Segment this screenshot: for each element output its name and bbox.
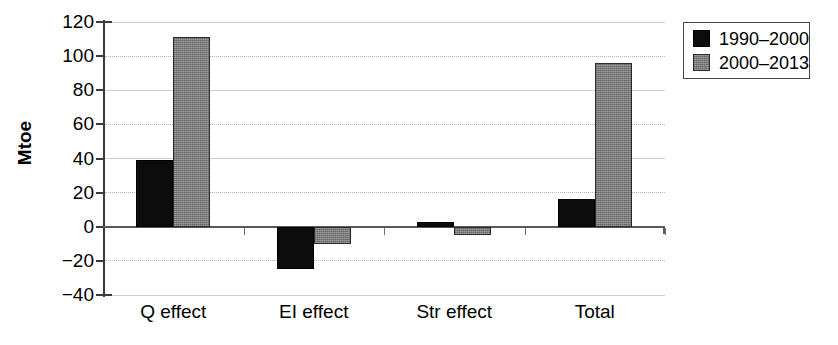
legend-item-label: 1990–2000: [719, 30, 809, 48]
bar: [558, 199, 595, 226]
y-axis-tick-label: 80: [42, 80, 94, 99]
y-axis-top-cap: [103, 21, 112, 23]
y-axis-tick-label: −40: [42, 285, 94, 304]
x-axis-category-label: Str effect: [384, 302, 524, 322]
legend-item-series-2: 2000–2013: [693, 52, 809, 73]
black-swatch-icon: [693, 30, 710, 47]
gridline: [105, 22, 665, 24]
x-axis-category-label: EI effect: [244, 302, 384, 322]
legend-box: 1990–2000 2000–2013: [683, 22, 810, 79]
y-axis-spine: [103, 20, 105, 297]
y-axis-title: Mtoe: [14, 103, 36, 183]
bar: [417, 222, 454, 227]
bar: [595, 63, 632, 227]
x-axis-tick: [244, 228, 245, 235]
y-axis-tick-label: −20: [42, 251, 94, 270]
y-axis-tick-label: 120: [42, 12, 94, 31]
x-axis-category-label: Q effect: [103, 302, 243, 322]
bar: [277, 227, 314, 270]
legend-item-label: 2000–2013: [719, 54, 809, 72]
bar: [454, 227, 491, 236]
x-axis-tick: [384, 228, 385, 235]
y-axis-tick-label: 40: [42, 149, 94, 168]
x-axis-tick: [525, 228, 526, 235]
y-axis-tick-label: 60: [42, 114, 94, 133]
bar: [173, 37, 210, 226]
gridline: [105, 260, 665, 262]
y-axis-tick-label: 20: [42, 183, 94, 202]
x-axis-category-label: Total: [525, 302, 665, 322]
bar: [136, 160, 173, 227]
y-axis-bottom-cap: [103, 294, 112, 296]
gray-swatch-icon: [693, 54, 710, 71]
x-axis-tick: [665, 228, 666, 235]
legend-item-series-1: 1990–2000: [693, 28, 809, 49]
y-axis-tick-label: 100: [42, 46, 94, 65]
bar: [314, 227, 351, 244]
gridline: [105, 295, 665, 297]
bar-chart-figure: Mtoe −40−20020406080100120 Q effectEI ef…: [0, 0, 838, 345]
y-axis-tick-label: 0: [42, 217, 94, 236]
